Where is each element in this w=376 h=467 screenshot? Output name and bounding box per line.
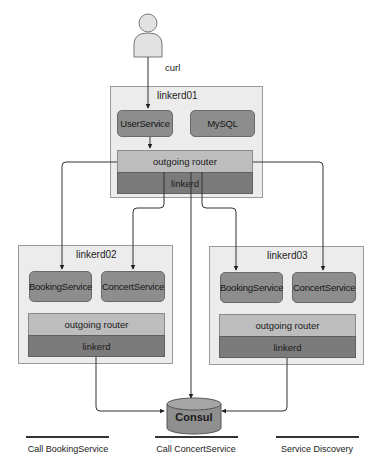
legend-label-booking: Call BookingService (18, 444, 118, 454)
legend-line-booking (26, 436, 109, 438)
connection-lines (0, 0, 376, 467)
legend-line-concert (155, 436, 238, 438)
legend-line-discovery (276, 436, 359, 438)
consul-label: Consul (167, 411, 221, 423)
curl-label: curl (165, 62, 180, 73)
person-icon (134, 14, 162, 57)
legend-label-concert: Call ConcertService (146, 444, 246, 454)
legend-label-discovery: Service Discovery (267, 444, 367, 454)
